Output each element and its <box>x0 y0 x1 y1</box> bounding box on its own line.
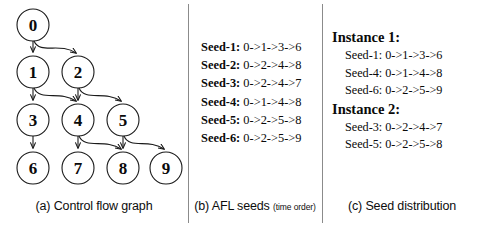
instance-seed: Seed-6: 0->2->5->9 <box>332 82 482 100</box>
cfg-node-8[interactable]: 8 <box>107 152 139 184</box>
seed-path: 0->2->4->8 <box>240 58 301 72</box>
seed-row: Seed-4: 0->1->4->8 <box>201 93 323 111</box>
instance-seed: Seed-1: 0->1->3->6 <box>332 47 482 65</box>
cfg-node-label-5: 5 <box>119 111 128 130</box>
cfg-edge-1-4 <box>34 88 76 101</box>
cfg-node-label-3: 3 <box>29 111 38 130</box>
seed-label: Seed-2: <box>201 58 240 72</box>
seed-path: 0->1->3->6 <box>240 40 301 54</box>
panel-c-caption: (c) Seed distribution <box>322 199 482 213</box>
cfg-edge-5-9 <box>124 136 164 149</box>
panel-c-caption-text: (c) Seed distribution <box>348 199 456 213</box>
cfg-node-label-2: 2 <box>74 63 83 82</box>
cfg-node-group: 0 1 2 3 4 5 6 <box>17 9 182 184</box>
seed-label: Seed-1: <box>201 40 240 54</box>
seed-path: 0->1->4->8 <box>240 95 301 109</box>
seed-label: Seed-6: <box>201 131 240 145</box>
cfg-node-label-6: 6 <box>29 159 38 178</box>
cfg-edge-0-2 <box>34 41 76 53</box>
cfg-node-label-7: 7 <box>74 159 83 178</box>
panel-b-caption-subtext: (time order) <box>273 202 316 212</box>
cfg-node-6[interactable]: 6 <box>17 152 49 184</box>
instance-seed: Seed-4: 0->1->4->8 <box>332 65 482 83</box>
cfg-node-3[interactable]: 3 <box>17 104 49 136</box>
panel-afl-seeds: Seed-1: 0->1->3->6 Seed-2: 0->2->4->8 Se… <box>188 0 322 229</box>
cfg-edge-4-8 <box>79 136 121 149</box>
cfg-node-label-9: 9 <box>162 159 171 178</box>
cfg-node-0[interactable]: 0 <box>17 9 49 41</box>
cfg-node-9[interactable]: 9 <box>150 152 182 184</box>
instance-list: Instance 1: Seed-1: 0->1->3->6 Seed-4: 0… <box>332 28 482 154</box>
seed-row: Seed-5: 0->2->5->8 <box>201 111 323 129</box>
cfg-node-label-0: 0 <box>29 16 38 35</box>
panel-divider-1 <box>188 4 189 223</box>
seed-row: Seed-3: 0->2->4->7 <box>201 74 323 92</box>
cfg-node-5[interactable]: 5 <box>107 104 139 136</box>
panel-seed-distribution: Instance 1: Seed-1: 0->1->3->6 Seed-4: 0… <box>322 0 482 229</box>
seed-path: 0->2->4->7 <box>240 76 301 90</box>
panel-a-caption: (a) Control flow graph <box>0 199 188 213</box>
cfg-edge-group <box>33 41 164 149</box>
seed-label: Seed-4: <box>201 95 240 109</box>
seed-row: Seed-2: 0->2->4->8 <box>201 56 323 74</box>
cfg-edge-2-5 <box>79 88 121 101</box>
cfg-node-1[interactable]: 1 <box>17 56 49 88</box>
instance-title: Instance 1: <box>332 28 482 47</box>
seed-path: 0->2->5->9 <box>240 131 301 145</box>
cfg-node-4[interactable]: 4 <box>62 104 94 136</box>
instance-group: Instance 1: Seed-1: 0->1->3->6 Seed-4: 0… <box>332 28 482 100</box>
instance-title: Instance 2: <box>332 100 482 119</box>
seed-label: Seed-5: <box>201 113 240 127</box>
panel-divider-2 <box>322 4 323 223</box>
seed-row: Seed-1: 0->1->3->6 <box>201 38 323 56</box>
seed-list: Seed-1: 0->1->3->6 Seed-2: 0->2->4->8 Se… <box>201 38 323 147</box>
panel-b-caption-text: (b) AFL seeds <box>194 199 273 213</box>
instance-group: Instance 2: Seed-3: 0->2->4->7 Seed-5: 0… <box>332 100 482 154</box>
instance-seed: Seed-3: 0->2->4->7 <box>332 119 482 137</box>
cfg-node-label-1: 1 <box>29 63 38 82</box>
cfg-node-2[interactable]: 2 <box>62 56 94 88</box>
cfg-node-label-8: 8 <box>119 159 128 178</box>
control-flow-graph-diagram: 0 1 2 3 4 5 6 <box>0 0 188 195</box>
instance-seed: Seed-5: 0->2->5->8 <box>332 136 482 154</box>
panel-b-caption: (b) AFL seeds (time order) <box>188 199 322 213</box>
seed-path: 0->2->5->8 <box>240 113 301 127</box>
seed-row: Seed-6: 0->2->5->9 <box>201 129 323 147</box>
cfg-node-label-4: 4 <box>74 111 83 130</box>
seed-label: Seed-3: <box>201 76 240 90</box>
cfg-node-7[interactable]: 7 <box>62 152 94 184</box>
panel-control-flow-graph: 0 1 2 3 4 5 6 <box>0 0 188 229</box>
panel-a-caption-text: (a) Control flow graph <box>36 199 153 213</box>
